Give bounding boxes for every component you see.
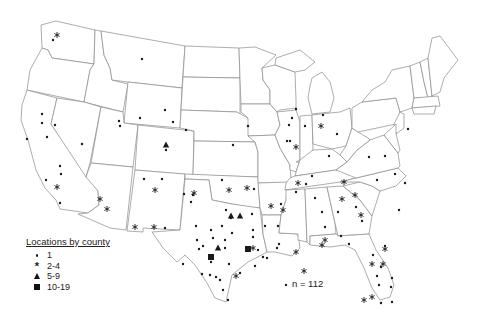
- marker-dot: [251, 213, 253, 215]
- marker-dot: [59, 165, 61, 167]
- marker-dot: [376, 275, 378, 277]
- marker-dot: [221, 179, 223, 181]
- marker-dot: [46, 136, 48, 138]
- marker-dot: [231, 232, 233, 234]
- marker-dot: [52, 39, 54, 41]
- marker-dot: [340, 235, 342, 237]
- marker-dot: [391, 301, 393, 303]
- marker-dot: [254, 265, 256, 267]
- triangle-icon: [30, 273, 44, 279]
- marker-dot: [390, 286, 392, 288]
- marker-dot: [81, 143, 83, 145]
- marker-dot: [172, 121, 174, 123]
- marker-dot: [277, 225, 279, 227]
- marker-dot: [355, 206, 357, 208]
- marker-dot: [404, 182, 406, 184]
- marker-dot: [222, 289, 224, 291]
- marker-dot: [219, 279, 221, 281]
- marker-dot: [380, 302, 382, 304]
- marker-dot: [239, 272, 241, 274]
- marker-square: [208, 254, 214, 260]
- marker-dot: [60, 173, 62, 175]
- marker-dot: [280, 203, 282, 205]
- marker-dot: [336, 133, 338, 135]
- marker-dot: [398, 209, 400, 211]
- marker-dot: [324, 226, 326, 228]
- marker-dot: [202, 245, 204, 247]
- marker-dot: [224, 239, 226, 241]
- marker-dot: [143, 178, 145, 180]
- marker-dot: [118, 120, 120, 122]
- marker-dot: [264, 225, 266, 227]
- marker-dot: [210, 229, 212, 231]
- legend-item-1: 1: [26, 250, 110, 261]
- marker-dot: [252, 229, 254, 231]
- marker-dot: [165, 149, 167, 151]
- marker-dot: [201, 273, 203, 275]
- marker-dot: [45, 179, 47, 181]
- square-icon: [30, 284, 44, 290]
- marker-asterisk: [301, 268, 306, 274]
- marker-dot: [328, 155, 330, 157]
- marker-dot: [285, 284, 287, 286]
- marker-dot: [139, 117, 141, 119]
- marker-dot: [376, 179, 378, 181]
- legend-label: 5-9: [47, 271, 60, 281]
- marker-dot: [295, 191, 297, 193]
- marker-dot: [276, 247, 278, 249]
- marker-dot: [209, 274, 211, 276]
- marker-dot: [311, 175, 313, 177]
- marker-dot: [391, 277, 393, 279]
- marker-dot: [291, 117, 293, 119]
- marker-dot: [232, 144, 234, 146]
- marker-dot: [41, 113, 43, 115]
- marker-dot: [368, 156, 370, 158]
- marker-asterisk: [361, 297, 366, 303]
- marker-dot: [378, 284, 380, 286]
- marker-dot: [182, 263, 184, 265]
- marker-dot: [372, 254, 374, 256]
- marker-dot: [228, 263, 230, 265]
- marker-dot: [380, 266, 382, 268]
- marker-dot: [198, 248, 200, 250]
- marker-dot: [195, 225, 197, 227]
- marker-dot: [41, 122, 43, 124]
- marker-dot: [314, 197, 316, 199]
- marker-dot: [210, 261, 212, 263]
- legend: Locations by county 1 * 2-4 5-9 10-19: [26, 236, 110, 292]
- marker-asterisk: [382, 246, 387, 252]
- marker-dot: [321, 211, 323, 213]
- legend-item-10-19: 10-19: [26, 282, 110, 293]
- marker-dot: [54, 124, 56, 126]
- asterisk-icon: *: [30, 262, 44, 270]
- marker-dot: [225, 209, 227, 211]
- marker-dot: [164, 109, 166, 111]
- marker-dot: [304, 125, 306, 127]
- marker-dot: [278, 243, 280, 245]
- marker-asterisk: [233, 273, 238, 279]
- marker-dot: [221, 225, 223, 227]
- marker-dot: [164, 227, 166, 229]
- marker-dot: [288, 124, 290, 126]
- marker-dot: [247, 125, 249, 127]
- marker-dot: [257, 249, 259, 251]
- marker-dot: [286, 140, 288, 142]
- marker-dot: [394, 173, 396, 175]
- marker-dot: [119, 125, 121, 127]
- marker-dot: [185, 129, 187, 131]
- marker-dot: [262, 256, 264, 258]
- legend-label: 1: [47, 250, 52, 260]
- marker-dot: [253, 188, 255, 190]
- marker-dot: [26, 138, 28, 140]
- marker-dot: [183, 193, 185, 195]
- marker-dot: [196, 239, 198, 241]
- marker-dot: [59, 202, 61, 204]
- dot-icon: [30, 254, 44, 257]
- legend-title: Locations by county: [26, 236, 110, 247]
- marker-dot: [305, 183, 307, 185]
- legend-item-5-9: 5-9: [26, 271, 110, 282]
- marker-dot: [252, 236, 254, 238]
- sample-size-label: n = 112: [292, 278, 323, 289]
- marker-dot: [227, 299, 229, 301]
- marker-dot: [266, 257, 268, 259]
